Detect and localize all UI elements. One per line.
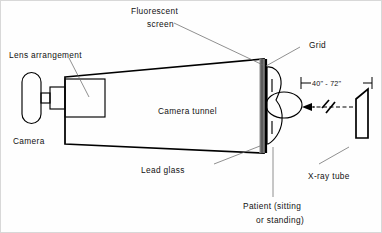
- label-patient-line1: Patient (sitting: [243, 201, 301, 211]
- label-camera-tunnel: Camera tunnel: [158, 106, 217, 116]
- lens-arrangement-box: [65, 79, 105, 117]
- fluorescent-screen-panel: [260, 59, 266, 153]
- x-ray-beam-dashed-ray: [302, 100, 353, 113]
- label-grid: Grid: [309, 40, 326, 50]
- label-fluorescent-screen-line2: screen: [147, 19, 174, 29]
- leader-grid: [266, 47, 300, 66]
- leader-xray-tube: [319, 147, 349, 164]
- leader-lens-arrangement: [69, 58, 89, 97]
- diagram-canvas: 40" - 72" Fluorescent screen Grid Lens a…: [0, 0, 382, 233]
- camera-body: [22, 73, 65, 124]
- label-lens-arrangement: Lens arrangement: [9, 50, 82, 60]
- distance-label: 40" - 72": [312, 79, 342, 88]
- x-ray-tube-body: [356, 89, 368, 138]
- label-camera: Camera: [13, 136, 45, 146]
- schematic-drawing: 40" - 72" Fluorescent screen Grid Lens a…: [1, 1, 382, 233]
- leader-lead-glass: [214, 146, 260, 164]
- label-lead-glass: Lead glass: [141, 165, 185, 175]
- patient-figure: [266, 67, 302, 144]
- label-fluorescent-screen-line1: Fluorescent: [131, 6, 179, 16]
- label-xray-tube: X-ray tube: [308, 171, 350, 181]
- label-patient-line2: or standing): [256, 215, 304, 225]
- leader-fluorescent-screen: [174, 23, 263, 65]
